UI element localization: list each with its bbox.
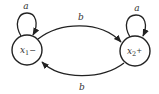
automaton-diagram: a a b b x1− x2+	[0, 0, 159, 94]
state-x2-sup: +	[136, 47, 142, 55]
loop-label-x2: a	[134, 3, 139, 13]
state-x2: x2+	[120, 36, 150, 66]
edge-x1-to-x2	[38, 26, 121, 42]
state-x1-sup: −	[29, 46, 36, 55]
diagram-svg: a a b b x1− x2+	[0, 0, 159, 94]
edge-label-bottom: b	[79, 82, 85, 92]
edge-x2-to-x1	[42, 62, 124, 76]
self-loop-x2	[126, 15, 145, 37]
self-loop-x1	[17, 13, 36, 36]
edge-label-top: b	[78, 12, 84, 22]
loop-label-x1: a	[23, 1, 28, 11]
state-x1: x1−	[12, 35, 42, 65]
